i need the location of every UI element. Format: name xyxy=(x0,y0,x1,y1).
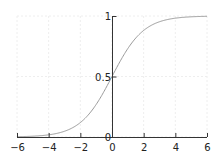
sigmoid-chart: −6−4−20246 00.51 xyxy=(0,0,221,158)
y-tick-label: 1 xyxy=(105,11,111,22)
x-tick-label: 0 xyxy=(109,142,115,153)
y-tick-label: 0.5 xyxy=(95,72,111,83)
y-axis-ticks: 00.51 xyxy=(95,11,116,143)
x-tick-label: −2 xyxy=(73,142,88,153)
x-tick-label: 4 xyxy=(173,142,179,153)
y-tick-label: 0 xyxy=(105,132,111,143)
x-tick-label: −4 xyxy=(42,142,57,153)
x-tick-label: 2 xyxy=(141,142,147,153)
x-tick-label: 6 xyxy=(204,142,210,153)
x-tick-label: −6 xyxy=(10,142,25,153)
